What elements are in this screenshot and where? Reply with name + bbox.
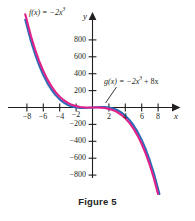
y-axis-arrowhead (89, 12, 97, 20)
g-label-leader-line (106, 87, 117, 103)
plot-svg (0, 0, 195, 195)
plot-area: 800 600 400 200 −200 −400 −600 −800 −8 −… (0, 0, 195, 195)
figure-caption: Figure 5 (0, 196, 195, 207)
x-tick-label-8: 8 (146, 113, 170, 121)
y-axis-name: y (83, 12, 87, 21)
function-label-g: g(x) = −2x3 + 8x (104, 78, 159, 86)
function-label-f: f(x) = −2x3 (29, 9, 65, 17)
function-label-g-text: g(x) = −2x (104, 77, 139, 86)
figure-container: 800 600 400 200 −200 −400 −600 −800 −8 −… (0, 0, 195, 221)
function-label-f-exponent: 3 (62, 6, 65, 12)
y-tick-label-800: 800 (58, 36, 86, 44)
y-tick-label-200: 200 (58, 87, 86, 95)
y-tick-label-400: 400 (58, 70, 86, 78)
y-tick-label-600: 600 (58, 53, 86, 61)
function-label-g-suffix: + 8x (142, 77, 159, 86)
y-tick-label-neg800: −800 (55, 171, 86, 179)
y-tick-label-neg600: −600 (55, 154, 86, 162)
curve-f-x (25, 14, 158, 194)
y-tick-label-neg400: −400 (55, 137, 86, 145)
x-tick-label-neg2: −2 (64, 111, 88, 119)
y-tick-label-neg200: −200 (55, 120, 86, 128)
function-label-f-text: f(x) = −2x (29, 8, 62, 17)
x-axis-name: x (174, 112, 178, 121)
